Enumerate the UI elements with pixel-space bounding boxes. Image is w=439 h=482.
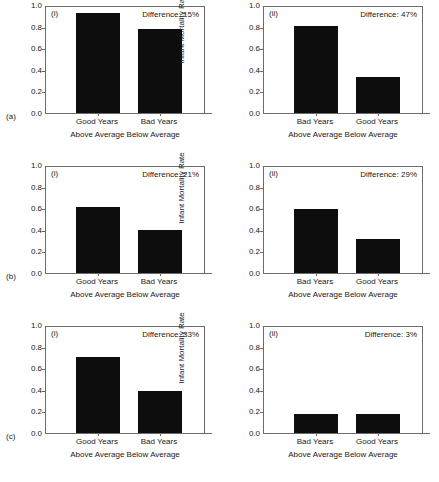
x-axis-labels: Bad Years Good Years xyxy=(263,117,423,128)
baseline-extension xyxy=(205,113,212,114)
y-tick-label: 0.2 xyxy=(238,408,260,416)
x-axis-caption: Above Average Below Average xyxy=(263,290,423,300)
y-tick-label: 0.4 xyxy=(238,67,260,75)
y-tick-mark xyxy=(42,71,45,72)
baseline-extension xyxy=(423,273,430,274)
bar xyxy=(76,13,120,113)
bar xyxy=(356,77,400,113)
y-tick-mark xyxy=(42,348,45,349)
y-tick-label: 0.6 xyxy=(238,205,260,213)
x-tick-mark xyxy=(378,433,379,436)
y-tick-mark xyxy=(260,412,263,413)
x-tick-mark xyxy=(316,433,317,436)
y-tick-label: 0.8 xyxy=(20,184,42,192)
x-tick-mark xyxy=(98,273,99,276)
y-tick-mark xyxy=(260,188,263,189)
y-tick-label: 0.6 xyxy=(20,365,42,373)
y-tick-label: 0.2 xyxy=(238,88,260,96)
figure-bar-chart-grid: (a) Birth Rate 1.00.80.60.40.20.0 (i) Di… xyxy=(0,0,439,482)
y-tick-mark xyxy=(260,252,263,253)
x-tick-label: Good Years xyxy=(342,117,412,127)
x-tick-label: Bad Years xyxy=(124,277,194,287)
y-tick-label: 0.0 xyxy=(238,110,260,118)
y-tick-mark xyxy=(260,391,263,392)
figure-row-b: (b) Birth Rate 1.00.80.60.40.20.0 (i) Di… xyxy=(0,160,439,320)
y-tick-label: 0.8 xyxy=(238,344,260,352)
bars-container xyxy=(264,7,422,113)
x-tick-mark xyxy=(98,113,99,116)
x-axis-labels: Bad Years Good Years xyxy=(263,277,423,288)
bar xyxy=(76,357,120,433)
y-tick-label: 0.6 xyxy=(20,205,42,213)
bar xyxy=(294,414,338,433)
y-tick-label: 1.0 xyxy=(20,322,42,330)
y-tick-label: 1.0 xyxy=(20,2,42,10)
y-tick-label: 1.0 xyxy=(238,322,260,330)
x-tick-mark xyxy=(160,113,161,116)
y-axis-label: Infant Mortality Rate xyxy=(176,140,188,236)
y-tick-mark xyxy=(42,92,45,93)
y-tick-label: 0.0 xyxy=(20,270,42,278)
y-axis-ticks: 1.00.80.60.40.20.0 xyxy=(20,326,42,434)
x-tick-label: Good Years xyxy=(342,277,412,287)
panel-a-ii: Infant Mortality Rate 1.00.80.60.40.20.0… xyxy=(224,6,429,160)
y-axis-label: Infant Mortality Rate xyxy=(176,0,188,76)
y-tick-label: 0.4 xyxy=(238,227,260,235)
y-tick-label: 0.6 xyxy=(238,45,260,53)
x-tick-mark xyxy=(378,273,379,276)
y-tick-label: 0.2 xyxy=(20,88,42,96)
y-tick-label: 0.6 xyxy=(20,45,42,53)
plot-area: (ii) Difference: 3% xyxy=(263,326,423,434)
y-axis-ticks: 1.00.80.60.40.20.0 xyxy=(238,326,260,434)
plot-area: (ii) Difference: 47% xyxy=(263,6,423,114)
y-tick-label: 0.4 xyxy=(20,227,42,235)
x-tick-mark xyxy=(378,113,379,116)
x-tick-label: Bad Years xyxy=(280,117,350,127)
bar xyxy=(356,414,400,433)
y-axis-ticks: 1.00.80.60.40.20.0 xyxy=(20,166,42,274)
y-tick-mark xyxy=(42,28,45,29)
y-tick-label: 0.2 xyxy=(20,408,42,416)
x-axis-caption: Above Average Below Average xyxy=(45,450,205,460)
y-tick-label: 0.4 xyxy=(20,67,42,75)
x-tick-mark xyxy=(160,433,161,436)
x-axis-labels: Good Years Bad Years xyxy=(45,437,205,448)
bar xyxy=(76,207,120,273)
y-tick-mark xyxy=(42,188,45,189)
y-tick-label: 0.0 xyxy=(20,430,42,438)
figure-row-a: (a) Birth Rate 1.00.80.60.40.20.0 (i) Di… xyxy=(0,0,439,160)
bar xyxy=(356,239,400,273)
y-tick-label: 1.0 xyxy=(238,162,260,170)
y-tick-label: 0.0 xyxy=(20,110,42,118)
y-tick-label: 0.0 xyxy=(238,430,260,438)
x-axis-labels: Good Years Bad Years xyxy=(45,277,205,288)
panel-c-ii: Infant Mortality Rate 1.00.80.60.40.20.0… xyxy=(224,326,429,480)
y-tick-label: 0.2 xyxy=(20,248,42,256)
x-tick-label: Bad Years xyxy=(124,437,194,447)
y-tick-label: 0.4 xyxy=(20,387,42,395)
bar xyxy=(138,230,182,273)
y-tick-mark xyxy=(42,49,45,50)
x-axis-caption: Above Average Below Average xyxy=(45,130,205,140)
x-axis-caption: Above Average Below Average xyxy=(45,290,205,300)
x-tick-label: Good Years xyxy=(62,277,132,287)
x-tick-mark xyxy=(316,273,317,276)
bar xyxy=(294,209,338,273)
y-tick-label: 0.8 xyxy=(20,24,42,32)
x-tick-mark xyxy=(160,273,161,276)
y-tick-mark xyxy=(260,231,263,232)
y-axis-label: Infant Mortality Rate xyxy=(176,300,188,396)
y-tick-label: 0.2 xyxy=(238,248,260,256)
y-tick-mark xyxy=(42,231,45,232)
y-tick-label: 0.4 xyxy=(238,387,260,395)
y-axis-ticks: 1.00.80.60.40.20.0 xyxy=(238,166,260,274)
y-axis-ticks: 1.00.80.60.40.20.0 xyxy=(238,6,260,114)
x-axis-caption: Above Average Below Average xyxy=(263,450,423,460)
y-tick-label: 0.0 xyxy=(238,270,260,278)
y-tick-mark xyxy=(260,209,263,210)
y-tick-label: 1.0 xyxy=(238,2,260,10)
x-tick-mark xyxy=(98,433,99,436)
bar xyxy=(138,391,182,433)
y-tick-mark xyxy=(260,369,263,370)
y-tick-mark xyxy=(260,92,263,93)
